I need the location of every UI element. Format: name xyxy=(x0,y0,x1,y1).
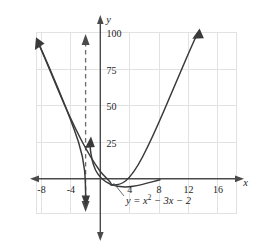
parabola-path xyxy=(38,34,197,185)
equation-prefix: y = x xyxy=(125,195,148,206)
x-tick-label: 8 xyxy=(157,184,162,195)
x-axis-label: x xyxy=(242,177,248,188)
parabola-arrow-right xyxy=(192,28,204,38)
x-tick-label: 4 xyxy=(127,184,132,195)
x-axis-arrow-left xyxy=(30,175,39,182)
x-tick-label: -4 xyxy=(67,184,75,195)
svg-text:y = x2 − 3x − 2: y = x2 − 3x − 2 xyxy=(125,194,192,206)
y-tick-label: 75 xyxy=(107,65,117,76)
parabola-arrow-left xyxy=(35,37,45,50)
asymptote-arrow-top xyxy=(82,34,90,45)
y-axis-arrow-bottom xyxy=(97,232,104,241)
rational-left-branch xyxy=(40,46,86,198)
equation-label: y = x2 − 3x − 2 xyxy=(125,194,192,206)
graph-figure: -8 -4 4 8 12 16 25 50 75 100 x y y = x2 … xyxy=(0,0,264,251)
x-tick-label: 16 xyxy=(213,184,223,195)
x-tick-label: 12 xyxy=(184,184,194,195)
y-tick-label: 100 xyxy=(107,28,122,39)
y-tick-labels: 25 50 75 100 xyxy=(107,28,122,149)
y-axis xyxy=(97,15,104,241)
x-tick-labels: -8 -4 4 8 12 16 xyxy=(37,184,223,195)
equation-suffix: − 3x − 2 xyxy=(151,195,192,206)
y-tick-label: 25 xyxy=(107,138,117,149)
parabola-curve xyxy=(35,28,204,185)
y-axis-arrow-top xyxy=(97,15,104,24)
graph-canvas: -8 -4 4 8 12 16 25 50 75 100 x y y = x2 … xyxy=(0,0,264,251)
x-axis xyxy=(30,175,244,182)
x-tick-label: -8 xyxy=(37,184,45,195)
y-tick-label: 50 xyxy=(107,101,117,112)
y-axis-label: y xyxy=(105,14,111,25)
